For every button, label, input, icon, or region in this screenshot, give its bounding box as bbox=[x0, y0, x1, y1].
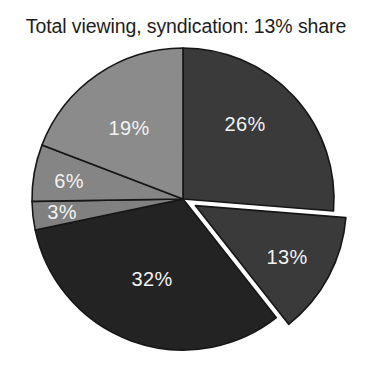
pie-slices-group bbox=[32, 48, 346, 350]
pie-slice-label-19: 19% bbox=[109, 117, 150, 139]
pie-slice-label-32: 32% bbox=[132, 268, 173, 290]
pie-slice-label-26: 26% bbox=[225, 113, 266, 135]
pie-chart-figure: Total viewing, syndication: 13% share 26… bbox=[0, 0, 372, 368]
pie-slice-label-6: 6% bbox=[54, 170, 84, 192]
pie-slice-label-13: 13% bbox=[267, 246, 308, 268]
pie-slice-label-3: 3% bbox=[47, 201, 77, 223]
pie-plot-area: 26%13%32%3%6%19% bbox=[0, 0, 372, 368]
pie-svg: 26%13%32%3%6%19% bbox=[0, 0, 372, 368]
